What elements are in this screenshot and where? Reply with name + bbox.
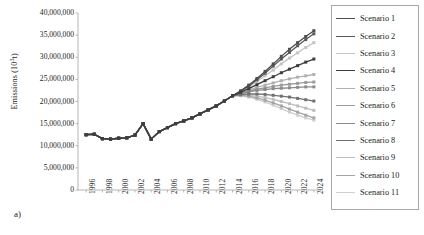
series-marker: [304, 81, 307, 84]
legend-item[interactable]: Scenario 2: [336, 27, 415, 44]
series-marker: [272, 69, 275, 72]
series-marker: [296, 64, 299, 67]
legend-label: Scenario 10: [360, 171, 399, 180]
legend-label: Scenario 7: [360, 119, 395, 128]
chart-legend: Scenario 1Scenario 2Scenario 3Scenario 4…: [331, 5, 419, 210]
series-line: [86, 96, 314, 139]
legend-item[interactable]: Scenario 7: [336, 114, 415, 131]
series-marker: [280, 87, 283, 90]
series-marker: [288, 86, 291, 89]
series-marker: [125, 136, 128, 139]
series-marker: [280, 79, 283, 82]
chart-series: [85, 93, 316, 140]
series-line: [86, 59, 314, 139]
legend-swatch-icon: [336, 123, 355, 124]
legend-item[interactable]: Scenario 9: [336, 149, 415, 166]
series-marker: [117, 137, 120, 140]
series-marker: [312, 58, 315, 61]
series-marker: [264, 93, 267, 96]
series-marker: [280, 71, 283, 74]
legend-label: Scenario 1: [360, 14, 395, 23]
series-marker: [312, 41, 315, 44]
series-line: [86, 95, 314, 139]
legend-swatch-icon: [336, 88, 355, 89]
series-marker: [296, 76, 299, 79]
series-marker: [288, 77, 291, 80]
legend-item[interactable]: Scenario 4: [336, 62, 415, 79]
series-marker: [296, 104, 299, 107]
series-marker: [255, 92, 258, 95]
series-marker: [312, 29, 315, 32]
series-marker: [304, 116, 307, 119]
legend-swatch-icon: [336, 70, 355, 71]
series-marker: [255, 96, 258, 99]
series-line: [86, 82, 314, 139]
panel-label: a): [14, 209, 21, 219]
series-marker: [272, 101, 275, 104]
series-marker: [280, 100, 283, 103]
legend-label: Scenario 3: [360, 49, 395, 58]
series-marker: [304, 74, 307, 77]
series-marker: [150, 138, 153, 141]
series-marker: [272, 81, 275, 84]
series-marker: [272, 62, 275, 65]
series-marker: [312, 109, 315, 112]
legend-item[interactable]: Scenario 6: [336, 97, 415, 114]
series-marker: [312, 81, 315, 84]
plot-canvas: [0, 0, 330, 235]
series-marker: [231, 94, 234, 97]
series-marker: [288, 83, 291, 86]
series-marker: [255, 89, 258, 92]
series-marker: [174, 122, 177, 125]
series-marker: [215, 104, 218, 107]
legend-item[interactable]: Scenario 11: [336, 184, 415, 201]
figure-panel: Emissions (103t) 05,000,00010,000,00015,…: [0, 0, 424, 235]
legend-label: Scenario 6: [360, 101, 395, 110]
series-marker: [93, 133, 96, 136]
series-marker: [304, 38, 307, 41]
chart-area: Emissions (103t) 05,000,00010,000,00015,…: [0, 0, 330, 235]
series-line: [86, 95, 314, 139]
series-line: [86, 75, 314, 140]
legend-swatch-icon: [336, 18, 355, 19]
series-marker: [109, 138, 112, 141]
legend-swatch-icon: [336, 140, 355, 141]
series-marker: [312, 73, 315, 76]
series-marker: [288, 48, 291, 51]
series-marker: [199, 112, 202, 115]
series-marker: [133, 134, 136, 137]
series-marker: [264, 96, 267, 99]
series-marker: [312, 32, 315, 35]
series-marker: [158, 130, 161, 133]
series-marker: [272, 94, 275, 97]
series-marker: [85, 133, 88, 136]
series-marker: [166, 126, 169, 129]
series-marker: [264, 70, 267, 73]
legend-item[interactable]: Scenario 10: [336, 167, 415, 184]
series-marker: [304, 85, 307, 88]
series-marker: [288, 96, 291, 99]
legend-swatch-icon: [336, 53, 355, 54]
series-marker: [239, 91, 242, 94]
legend-item[interactable]: Scenario 1: [336, 10, 415, 27]
series-marker: [296, 114, 299, 117]
legend-swatch-icon: [336, 36, 355, 37]
legend-item[interactable]: Scenario 5: [336, 80, 415, 97]
series-marker: [296, 86, 299, 89]
series-marker: [296, 44, 299, 47]
series-marker: [182, 119, 185, 122]
legend-swatch-icon: [336, 105, 355, 106]
chart-series: [85, 92, 316, 140]
legend-label: Scenario 5: [360, 84, 395, 93]
series-marker: [304, 107, 307, 110]
series-marker: [264, 84, 267, 87]
legend-swatch-icon: [336, 157, 355, 158]
legend-item[interactable]: Scenario 3: [336, 45, 415, 62]
series-marker: [280, 62, 283, 65]
legend-item[interactable]: Scenario 8: [336, 132, 415, 149]
series-marker: [280, 95, 283, 98]
series-marker: [288, 57, 291, 60]
series-marker: [296, 111, 299, 114]
series-marker: [247, 87, 250, 90]
series-marker: [288, 102, 291, 105]
